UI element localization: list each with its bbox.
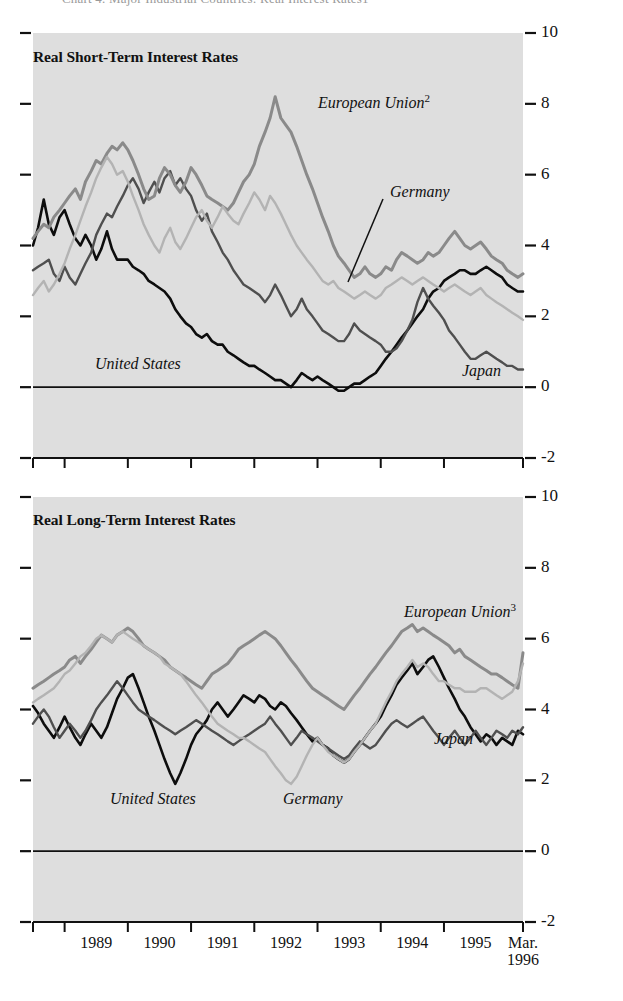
y-axis-tick-label: 4: [541, 699, 550, 719]
y-axis-tick-label: 8: [541, 93, 550, 113]
x-axis-tick-label: 1994: [380, 934, 444, 952]
footnote-marker: 3: [511, 601, 517, 613]
y-axis-tick-label: 6: [541, 164, 550, 184]
series-annotation-germany: Germany: [390, 183, 450, 201]
panel-long-term: [0, 480, 623, 1001]
series-annotation-european-union: European Union3: [404, 601, 516, 621]
plot-background: [33, 33, 523, 458]
panel-title-short-term: Real Short-Term Interest Rates: [33, 48, 238, 66]
footnote-marker: 2: [425, 92, 431, 104]
x-axis-tick-label: 1993: [317, 934, 381, 952]
x-axis-tick-label: 1991: [191, 934, 255, 952]
series-annotation-european-union: European Union2: [318, 92, 430, 112]
series-annotation-germany: Germany: [283, 790, 343, 808]
y-axis-tick-label: 0: [541, 840, 550, 860]
y-axis-tick-label: 10: [541, 486, 558, 506]
chart-page: Chart 4. Major Industrial Countries: Rea…: [0, 0, 623, 1001]
plot-background: [33, 497, 523, 922]
x-axis-tick-label: 1990: [127, 934, 191, 952]
panel-title-long-term: Real Long-Term Interest Rates: [33, 511, 235, 529]
series-annotation-united-states: United States: [95, 355, 181, 373]
y-axis-tick-label: 0: [541, 376, 550, 396]
y-axis-tick-label: 10: [541, 22, 558, 42]
x-axis-tick-label: 1989: [64, 934, 128, 952]
y-axis-tick-label: 6: [541, 628, 550, 648]
y-axis-tick-label: 2: [541, 305, 550, 325]
y-axis-tick-label: -2: [541, 447, 555, 467]
y-axis-tick-label: 8: [541, 557, 550, 577]
series-annotation-japan: Japan: [462, 362, 501, 380]
y-axis-tick-label: 4: [541, 235, 550, 255]
series-annotation-japan: Japan: [434, 730, 473, 748]
chart-svg-long-term: [0, 480, 623, 1001]
panel-short-term: [0, 0, 623, 480]
x-axis-tick-label: 1992: [254, 934, 318, 952]
x-axis-tick-label: Mar.1996: [491, 934, 555, 969]
series-annotation-united-states: United States: [110, 790, 196, 808]
y-axis-tick-label: -2: [541, 911, 555, 931]
chart-svg-short-term: [0, 0, 623, 480]
y-axis-tick-label: 2: [541, 769, 550, 789]
